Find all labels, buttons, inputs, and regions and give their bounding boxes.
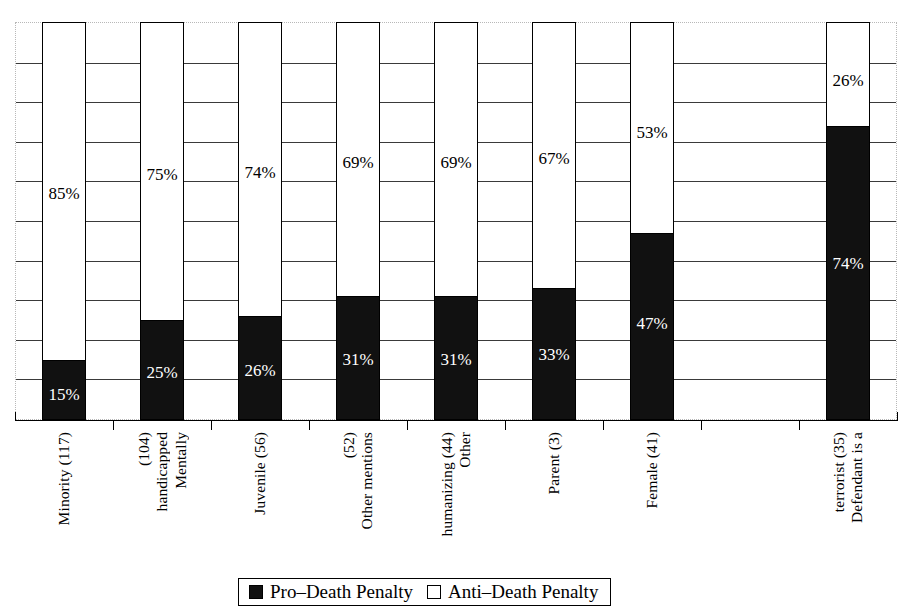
bar-slot: 69%31% — [407, 22, 505, 420]
bar-segment-pro-death-penalty[interactable]: 15% — [43, 360, 85, 419]
category-label: Other mentions(52) — [309, 432, 407, 572]
axis-tick — [603, 421, 604, 430]
bar-segment-label: 85% — [48, 185, 79, 202]
bar-slot: 67%33% — [505, 22, 603, 420]
bar-segment-label: 69% — [440, 154, 471, 171]
category-label: Defendant is aterrorist (35) — [799, 432, 897, 572]
category-label-line: (52) — [340, 432, 358, 458]
axis-tick — [309, 421, 310, 430]
bar-slot: 53%47% — [603, 22, 701, 420]
bar-segment-anti-death-penalty[interactable]: 69% — [435, 23, 477, 296]
category-label-line: Minority (117) — [55, 432, 73, 525]
stacked-bar[interactable]: 85%15% — [42, 22, 86, 420]
category-label-line: terrorist (35) — [830, 432, 848, 512]
category-label-line: Female (41) — [643, 432, 661, 508]
bar-slot: 75%25% — [113, 22, 211, 420]
bar-slot: 69%31% — [309, 22, 407, 420]
stacked-bar[interactable]: 53%47% — [630, 22, 674, 420]
filled-square-icon — [249, 585, 263, 599]
axis-tick — [505, 421, 506, 430]
chart-legend: Pro–Death PenaltyAnti–Death Penalty — [238, 578, 611, 606]
category-label-line: Defendant is a — [848, 432, 866, 523]
bar-segment-label: 33% — [538, 346, 569, 363]
stacked-bar[interactable]: 69%31% — [336, 22, 380, 420]
stacked-bar[interactable]: 74%26% — [238, 22, 282, 420]
bar-segment-pro-death-penalty[interactable]: 31% — [337, 296, 379, 419]
bar-segment-pro-death-penalty[interactable]: 74% — [827, 126, 869, 419]
bar-segment-pro-death-penalty[interactable]: 26% — [239, 316, 281, 419]
bar-segment-label: 31% — [440, 351, 471, 368]
legend-item[interactable]: Anti–Death Penalty — [427, 582, 598, 601]
bar-segment-label: 25% — [146, 364, 177, 381]
x-axis-category-labels: Minority (117)Mentallyhandicapped(104)Ju… — [15, 432, 897, 572]
bar-segment-label: 75% — [146, 166, 177, 183]
category-label: Minority (117) — [15, 432, 113, 572]
stacked-bar[interactable]: 75%25% — [140, 22, 184, 420]
category-label: Parent (3) — [505, 432, 603, 572]
stacked-bar[interactable]: 69%31% — [434, 22, 478, 420]
bar-segment-anti-death-penalty[interactable]: 67% — [533, 23, 575, 288]
bar-slot: 74%26% — [211, 22, 309, 420]
bar-segment-anti-death-penalty[interactable]: 69% — [337, 23, 379, 296]
axis-tick — [799, 421, 800, 430]
bar-slot — [701, 22, 799, 420]
category-label: Otherhumanizing (44) — [407, 432, 505, 572]
category-label-line: Other mentions — [358, 432, 376, 529]
category-label-line: (104) — [135, 432, 153, 466]
category-label — [701, 432, 799, 572]
category-label-line: humanizing (44) — [438, 432, 456, 536]
x-axis — [15, 420, 897, 421]
bar-segment-pro-death-penalty[interactable]: 31% — [435, 296, 477, 419]
bar-segment-pro-death-penalty[interactable]: 25% — [141, 320, 183, 419]
bar-segment-label: 26% — [244, 362, 275, 379]
stacked-bar[interactable]: 67%33% — [532, 22, 576, 420]
axis-tick — [113, 421, 114, 430]
bar-segment-label: 53% — [636, 124, 667, 141]
bar-segment-anti-death-penalty[interactable]: 26% — [827, 23, 869, 126]
bar-segment-anti-death-penalty[interactable]: 85% — [43, 23, 85, 360]
legend-label: Pro–Death Penalty — [270, 582, 413, 601]
axis-tick — [897, 412, 898, 421]
bar-segment-pro-death-penalty[interactable]: 47% — [631, 233, 673, 419]
category-label: Mentallyhandicapped(104) — [113, 432, 211, 572]
category-label: Female (41) — [603, 432, 701, 572]
legend-item[interactable]: Pro–Death Penalty — [249, 582, 413, 601]
bar-segment-label: 69% — [342, 154, 373, 171]
bar-slot: 85%15% — [15, 22, 113, 420]
bar-slot: 26%74% — [799, 22, 897, 420]
axis-tick — [15, 412, 16, 421]
bar-segment-label: 74% — [832, 255, 863, 272]
bar-segment-label: 74% — [244, 164, 275, 181]
category-label-line: Juvenile (56) — [251, 432, 269, 515]
category-label-line: Other — [456, 432, 474, 468]
legend-label: Anti–Death Penalty — [448, 582, 598, 601]
bar-segment-pro-death-penalty[interactable]: 33% — [533, 288, 575, 419]
category-label-line: Mentally — [171, 432, 189, 489]
bar-segment-anti-death-penalty[interactable]: 74% — [239, 23, 281, 316]
chart-bars: 85%15%75%25%74%26%69%31%69%31%67%33%53%4… — [15, 22, 897, 420]
bar-segment-label: 47% — [636, 315, 667, 332]
axis-tick — [701, 421, 702, 430]
bar-segment-label: 67% — [538, 150, 569, 167]
bar-segment-anti-death-penalty[interactable]: 75% — [141, 23, 183, 320]
hollow-square-icon — [427, 585, 441, 599]
category-label-line: handicapped — [153, 432, 171, 511]
category-label: Juvenile (56) — [211, 432, 309, 572]
axis-tick — [211, 421, 212, 430]
bar-segment-label: 26% — [832, 72, 863, 89]
bar-segment-label: 15% — [48, 386, 79, 403]
bar-segment-anti-death-penalty[interactable]: 53% — [631, 23, 673, 233]
axis-tick — [407, 421, 408, 430]
stacked-bar[interactable]: 26%74% — [826, 22, 870, 420]
bar-segment-label: 31% — [342, 351, 373, 368]
category-label-line: Parent (3) — [545, 432, 563, 495]
